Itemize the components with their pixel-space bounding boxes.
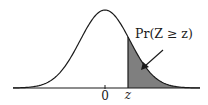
shaded-tail-region	[128, 37, 200, 88]
z-label: z	[124, 88, 132, 102]
tail-probability-label: Pr(Z ≥ z)	[135, 26, 193, 41]
annotation-arrow	[145, 50, 163, 66]
normal-distribution-diagram: 0 z Pr(Z ≥ z)	[0, 0, 208, 105]
bell-curve	[13, 10, 200, 88]
mean-label: 0	[101, 89, 109, 103]
